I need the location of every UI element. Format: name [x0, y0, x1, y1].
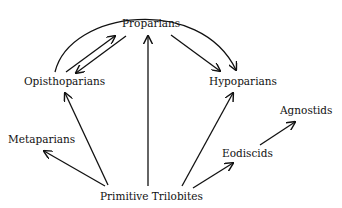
edge-primitive-to-eodiscids: [193, 163, 233, 188]
node-agnostids: Agnostids: [280, 104, 332, 116]
node-proparians: Proparians: [122, 17, 180, 29]
node-primitive-trilobites: Primitive Trilobites: [100, 190, 203, 202]
node-opisthoparians: Opisthoparians: [24, 75, 105, 87]
edge-opisthoparians-to-proparians: [66, 36, 115, 72]
node-metaparians: Metaparians: [8, 133, 75, 145]
edge-primitive-to-metaparians: [44, 151, 105, 186]
edge-eodiscids-to-agnostids: [260, 122, 295, 145]
trilobite-evolution-diagram: Proparians Opisthoparians Hypoparians Me…: [0, 0, 342, 208]
node-eodiscids: Eodiscids: [222, 147, 273, 159]
node-hypoparians: Hypoparians: [209, 75, 277, 87]
edge-proparians-to-opisthoparians: [76, 36, 126, 73]
edge-primitive-to-hypoparians: [182, 93, 233, 186]
